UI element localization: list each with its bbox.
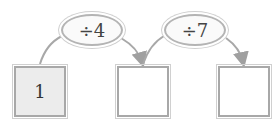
operation-label: ÷7 bbox=[182, 20, 209, 41]
box-value: 1 bbox=[34, 81, 45, 102]
operation-divide-by-7: ÷7 bbox=[164, 14, 226, 46]
operation-label: ÷4 bbox=[79, 20, 106, 41]
answer-box-1[interactable] bbox=[117, 66, 169, 117]
operation-divide-by-4: ÷4 bbox=[61, 14, 123, 46]
start-box: 1 bbox=[14, 66, 66, 117]
answer-box-2[interactable] bbox=[218, 66, 270, 117]
